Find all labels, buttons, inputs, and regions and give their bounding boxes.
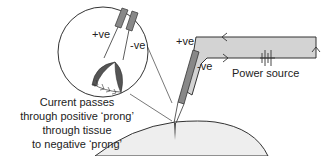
caption-line: to negative ‘prong’ [2, 137, 152, 151]
caption-line: through tissue [2, 123, 152, 137]
magnified-positive-label: +ve [92, 29, 110, 40]
probe-negative-label: -ve [197, 61, 212, 72]
current-caption: Current passes through positive ‘prong’ … [2, 95, 152, 151]
caption-line: through positive ‘prong’ [2, 109, 152, 123]
power-source-label: Power source [232, 68, 299, 79]
caption-line: Current passes [2, 95, 152, 109]
probe-positive-label: +ve [176, 36, 194, 47]
magnified-negative-label: -ve [130, 40, 145, 51]
